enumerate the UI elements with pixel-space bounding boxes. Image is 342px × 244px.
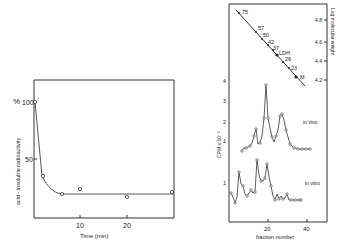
- svg-text:4.2: 4.2: [315, 77, 322, 83]
- svg-text:23: 23: [291, 65, 297, 71]
- figure: % 100 50 10 20 Time (min) acid - insolub…: [0, 0, 342, 244]
- time-course-chart: % 100 50 10 20 Time (min) acid - insolub…: [13, 80, 174, 239]
- svg-text:1: 1: [223, 138, 226, 144]
- log-mw-ticks: 4.8 4.6 4.4 4.2: [315, 17, 327, 83]
- svg-text:4.6: 4.6: [315, 39, 322, 45]
- data-points: [33, 100, 173, 198]
- svg-text:4.8: 4.8: [315, 17, 322, 23]
- percent-label: %: [13, 97, 20, 106]
- x-tick-20: 20: [264, 226, 271, 232]
- x-tick-40: 40: [303, 226, 310, 232]
- calibration-labels: 75 57 50 42 37 LDH 26 23 M: [242, 9, 305, 80]
- svg-text:1: 1: [223, 180, 226, 186]
- in-vivo-label: in vivo: [303, 119, 317, 125]
- x-tick-20: 20: [123, 222, 131, 229]
- cpm-ticks: 4 3 2 1 1: [223, 78, 226, 186]
- in-vivo-points: [241, 84, 311, 152]
- y-axis-label: acid - insoluble radioactivity: [15, 137, 21, 205]
- svg-text:2: 2: [223, 119, 226, 125]
- svg-text:50: 50: [263, 32, 269, 38]
- y-tick-100: 100: [22, 99, 34, 106]
- log-mw-label: Log molecular weight: [330, 8, 336, 56]
- svg-text:M: M: [300, 74, 305, 80]
- in-vivo-trace: [242, 85, 310, 151]
- svg-text:26: 26: [285, 56, 291, 62]
- fitted-curve: [35, 102, 174, 194]
- svg-text:4: 4: [223, 78, 226, 84]
- svg-text:3: 3: [223, 98, 226, 104]
- svg-text:75: 75: [242, 9, 248, 15]
- in-vitro-trace: [231, 160, 301, 203]
- y-tick-50: 50: [25, 156, 33, 163]
- x-axis-label: Time (min): [80, 233, 108, 239]
- x-axis-label: fraction number: [256, 234, 294, 240]
- in-vitro-label: in vitro: [305, 180, 320, 186]
- svg-text:4.4: 4.4: [315, 58, 322, 64]
- svg-text:57: 57: [258, 25, 264, 31]
- x-tick-10: 10: [76, 222, 84, 229]
- cpm-label: CPM x 10⁻²: [216, 131, 222, 158]
- calibration-line: [236, 10, 305, 86]
- fractionation-panel: 75 57 50 42 37 LDH 26 23 M 4.8 4.6 4.4 4…: [216, 4, 336, 240]
